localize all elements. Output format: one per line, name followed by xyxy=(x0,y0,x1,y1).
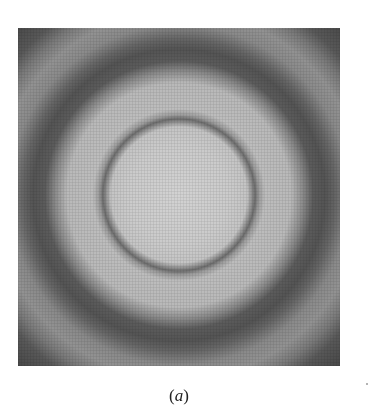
diffraction-pattern-image xyxy=(18,28,340,366)
panel-caption: (a) xyxy=(0,386,358,406)
caption-close-paren: ) xyxy=(183,386,189,405)
halftone-grain xyxy=(18,28,340,366)
caption-letter: a xyxy=(175,386,184,405)
